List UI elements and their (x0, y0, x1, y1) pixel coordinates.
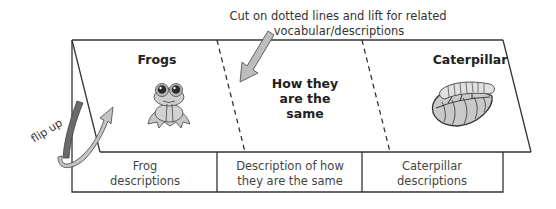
caterpillar-icon (432, 82, 494, 126)
instruction-line-1: Cut on dotted lines and lift for related (229, 9, 446, 23)
cell-caterpillar-line-2: descriptions (397, 174, 467, 188)
flip-up-arrow-icon (58, 101, 113, 168)
cut-line-1[interactable] (217, 40, 245, 152)
cell-same-line-2: they are the same (237, 174, 342, 188)
flip-up-label: flip up (29, 116, 65, 145)
flap-heading-frogs: Frogs (138, 52, 177, 67)
flap-heading-same-line-1: How they (272, 76, 338, 91)
instruction-line-2: vocabular/descriptions (274, 24, 405, 38)
foldable-diagram: Cut on dotted lines and lift for related… (0, 0, 556, 209)
cell-caterpillar-line-1: Caterpillar (402, 159, 462, 173)
cut-line-2[interactable] (362, 40, 390, 152)
flap-heading-same-line-3: same (286, 106, 323, 121)
flap-heading-same-line-2: are the (280, 91, 331, 106)
cut-pointer-arrow-icon (240, 31, 274, 82)
cell-same-line-1: Description of how (236, 159, 344, 173)
frog-icon (148, 84, 190, 129)
cell-frog-line-1: Frog (133, 159, 158, 173)
flap-left-edge (72, 40, 100, 152)
flap-heading-caterpillar: Caterpillar (433, 52, 508, 67)
cell-frog-line-2: descriptions (110, 174, 180, 188)
